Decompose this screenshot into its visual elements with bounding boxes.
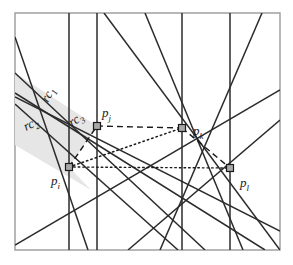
point-marker-p_l	[227, 165, 234, 172]
diagram-canvas: pipjpkplrc1rc2rc3	[0, 0, 293, 265]
point-marker-p_j	[94, 123, 101, 130]
point-marker-p_k	[179, 125, 186, 132]
point-marker-p_i	[66, 164, 73, 171]
figure-root: pipjpkplrc1rc2rc3	[0, 0, 293, 265]
